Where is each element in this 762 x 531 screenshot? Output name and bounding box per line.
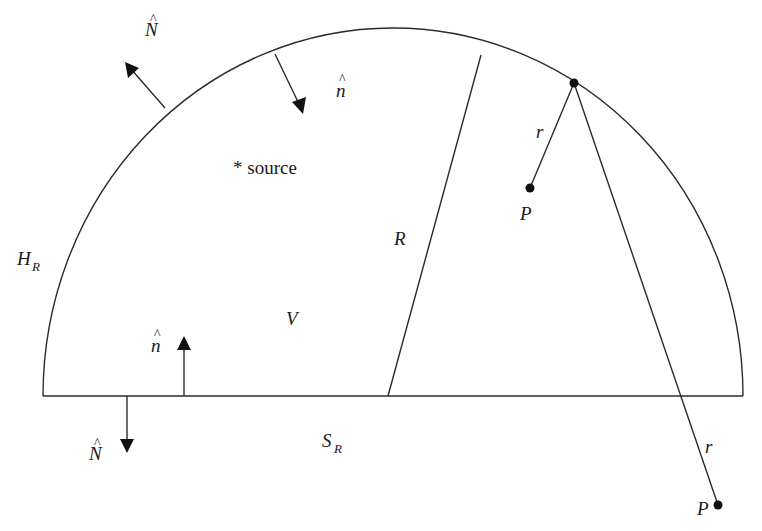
svg-text:R: R [31, 259, 40, 274]
inward-normal-arrow-top [275, 54, 306, 114]
label-point-outer: P [696, 498, 709, 519]
svg-text:R: R [333, 441, 342, 456]
svg-text:N: N [88, 443, 103, 464]
label-point-inner: P [519, 203, 532, 224]
outward-normal-arrow-bottom [120, 396, 134, 453]
svg-text:H: H [16, 248, 32, 269]
label-radius: R [393, 228, 406, 249]
label-flat-surface: S R [322, 430, 342, 456]
label-outward-normal-bottom: ^ N [88, 436, 103, 464]
hemisphere-arc [43, 28, 743, 396]
label-volume: V [286, 308, 300, 329]
label-distance-outer: r [705, 436, 713, 457]
point-outer-dot [714, 501, 723, 510]
svg-text:n: n [151, 335, 161, 356]
surface-point-dot [570, 79, 579, 88]
label-hemisphere: H R [16, 248, 40, 274]
label-outward-normal-top: ^ N [144, 12, 159, 40]
label-source: * source [233, 157, 297, 178]
label-inward-normal-bottom: ^ n [151, 327, 161, 356]
point-inner-dot [526, 184, 535, 193]
outward-normal-arrow-top [125, 62, 165, 108]
svg-text:n: n [336, 80, 346, 101]
distance-line-outer [574, 83, 718, 505]
svg-text:N: N [144, 19, 159, 40]
svg-text:S: S [322, 430, 332, 451]
inward-normal-arrow-bottom [177, 336, 191, 396]
label-distance-inner: r [536, 121, 544, 142]
hemisphere-diagram: ^ N ^ n * source H R R V ^ n ^ N S R r P… [0, 0, 762, 531]
radius-line [388, 55, 481, 396]
label-inward-normal-top: ^ n [336, 72, 346, 101]
